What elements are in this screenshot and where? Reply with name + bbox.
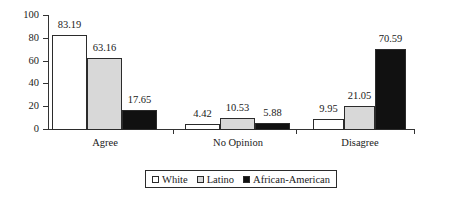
bar-label-agree-white: 83.19: [47, 19, 92, 30]
group-label-no-opinion: No Opinion: [197, 137, 279, 149]
bar-no-opinion-latino: [220, 118, 255, 130]
chart-legend: White Latino African-American: [145, 170, 337, 188]
bar-chart: 0 20 40 60 80 100 83.19: [0, 0, 449, 205]
legend-item-latino: Latino: [197, 174, 234, 185]
bars-layer: 83.19 63.16 17.65 4.42 10.53 5.88 9.95 2…: [0, 0, 449, 130]
bar-disagree-african-american: [375, 49, 406, 130]
legend-label-white: White: [162, 174, 188, 185]
bar-label-disagree-african-american: 70.59: [368, 33, 413, 44]
plot-area: 0 20 40 60 80 100 83.19: [0, 0, 449, 160]
legend-label-african-american: African-American: [253, 174, 330, 185]
bar-label-no-opinion-african-american: 5.88: [250, 107, 295, 118]
legend-swatch-african-american-icon: [243, 176, 250, 183]
bar-label-agree-latino: 63.16: [82, 42, 127, 53]
legend-swatch-white-icon: [152, 176, 159, 183]
legend-swatch-latino-icon: [197, 176, 204, 183]
bar-disagree-latino: [344, 106, 375, 130]
group-label-agree: Agree: [74, 137, 136, 149]
bar-disagree-white: [313, 119, 344, 130]
legend-item-white: White: [152, 174, 188, 185]
bar-no-opinion-african-american: [255, 123, 290, 130]
legend-item-african-american: African-American: [243, 174, 330, 185]
bar-agree-african-american: [122, 110, 157, 130]
group-label-disagree: Disagree: [325, 137, 395, 149]
bar-no-opinion-white: [185, 124, 220, 130]
legend-label-latino: Latino: [207, 174, 234, 185]
bar-label-agree-african-american: 17.65: [117, 94, 162, 105]
